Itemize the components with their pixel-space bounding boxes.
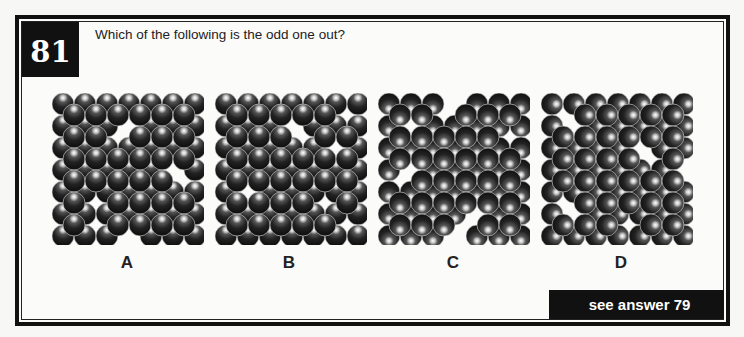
ball — [411, 192, 433, 214]
ball — [618, 192, 640, 214]
ball — [455, 148, 477, 170]
ball — [640, 126, 662, 148]
ball — [292, 192, 314, 214]
ball — [455, 126, 477, 148]
ball — [433, 148, 455, 170]
ball — [411, 104, 433, 126]
ball — [347, 93, 367, 115]
ball — [226, 104, 248, 126]
ball — [574, 192, 596, 214]
ball — [314, 104, 336, 126]
ball — [270, 126, 292, 148]
option-a-label[interactable]: A — [107, 253, 147, 273]
ball — [63, 214, 85, 236]
ball — [662, 126, 684, 148]
option-d-label[interactable]: D — [601, 253, 641, 273]
ball — [640, 104, 662, 126]
ball-grid — [378, 93, 530, 245]
ball — [226, 214, 248, 236]
ball — [63, 104, 85, 126]
ball — [552, 148, 574, 170]
ball — [292, 214, 314, 236]
ball — [336, 126, 358, 148]
ball — [248, 170, 270, 192]
ball — [173, 126, 195, 148]
ball — [85, 148, 107, 170]
ball — [129, 214, 151, 236]
ball — [314, 214, 336, 236]
ball — [314, 126, 336, 148]
option-c-label[interactable]: C — [433, 253, 473, 273]
ball — [618, 170, 640, 192]
ball — [226, 192, 248, 214]
ball — [411, 170, 433, 192]
ball — [107, 214, 129, 236]
ball — [662, 148, 684, 170]
puzzle-number-badge: 81 — [22, 22, 79, 77]
ball — [129, 170, 151, 192]
ball-grid — [541, 93, 693, 245]
ball — [618, 148, 640, 170]
question-text: Which of the following is the odd one ou… — [95, 27, 345, 42]
ball — [292, 104, 314, 126]
option-b-label[interactable]: B — [269, 253, 309, 273]
ball — [292, 170, 314, 192]
option-c-image[interactable] — [378, 93, 530, 245]
ball — [389, 126, 411, 148]
ball — [574, 148, 596, 170]
ball — [63, 192, 85, 214]
ball — [640, 170, 662, 192]
ball — [270, 170, 292, 192]
ball — [411, 214, 433, 236]
puzzle-number: 81 — [30, 35, 70, 69]
ball — [248, 192, 270, 214]
ball — [63, 126, 85, 148]
ball — [292, 148, 314, 170]
ball — [477, 170, 499, 192]
ball — [226, 126, 248, 148]
ball — [347, 225, 367, 245]
ball — [596, 104, 618, 126]
ball — [455, 170, 477, 192]
ball — [618, 104, 640, 126]
ball — [477, 214, 499, 236]
ball — [411, 148, 433, 170]
ball — [107, 148, 129, 170]
ball — [455, 192, 477, 214]
option-d-image[interactable] — [541, 93, 693, 245]
ball — [596, 126, 618, 148]
ball — [433, 126, 455, 148]
ball — [433, 214, 455, 236]
ball — [129, 104, 151, 126]
ball — [596, 170, 618, 192]
ball — [85, 126, 107, 148]
ball — [151, 214, 173, 236]
ball — [499, 148, 521, 170]
ball — [173, 148, 195, 170]
ball — [477, 148, 499, 170]
ball — [270, 214, 292, 236]
ball — [314, 170, 336, 192]
ball — [662, 214, 684, 236]
option-b-image[interactable] — [215, 93, 367, 245]
ball — [662, 192, 684, 214]
ball — [314, 148, 336, 170]
see-answer-button[interactable]: see answer 79 — [549, 290, 724, 319]
ball — [151, 126, 173, 148]
ball — [173, 104, 195, 126]
ball — [477, 192, 499, 214]
ball — [499, 104, 521, 126]
ball — [618, 126, 640, 148]
ball — [270, 192, 292, 214]
ball — [173, 214, 195, 236]
ball — [389, 104, 411, 126]
ball — [499, 170, 521, 192]
ball — [552, 126, 574, 148]
ball — [129, 192, 151, 214]
ball — [499, 192, 521, 214]
option-a-image[interactable] — [52, 93, 204, 245]
ball — [411, 126, 433, 148]
ball — [248, 148, 270, 170]
ball — [640, 214, 662, 236]
ball — [107, 192, 129, 214]
